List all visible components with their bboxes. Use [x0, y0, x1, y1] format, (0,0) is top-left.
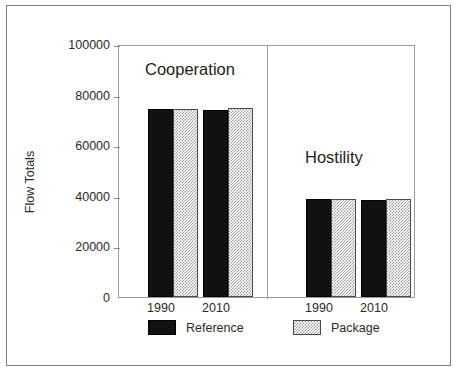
- legend-label-package: Package: [331, 321, 380, 335]
- panel-label-cooperation: Cooperation: [145, 60, 235, 79]
- bar-hostility-2010-package: [386, 199, 411, 297]
- y-axis-labels: Flow Totals 100000 80000 60000 40000 200…: [0, 45, 118, 298]
- panel-label-hostility: Hostility: [305, 148, 363, 167]
- y-tick-label-80000: 80000: [75, 90, 110, 103]
- y-axis-title: Flow Totals: [23, 139, 37, 225]
- y-tick-mark-100000: [114, 46, 120, 47]
- legend-label-reference: Reference: [186, 321, 244, 335]
- bar-hostility-1990-reference: [306, 199, 331, 297]
- panel-divider: [267, 46, 268, 299]
- x-tick-label-hostility-2010: 2010: [349, 301, 399, 315]
- y-tick-mark-80000: [114, 97, 120, 98]
- y-tick-label-60000: 60000: [75, 140, 110, 153]
- y-tick-label-100000: 100000: [68, 39, 110, 52]
- chart-legend: Reference Package: [118, 320, 418, 344]
- y-tick-mark-60000: [114, 147, 120, 148]
- x-tick-label-hostility-1990: 1990: [294, 301, 344, 315]
- bar-cooperation-1990-package: [173, 109, 198, 297]
- bar-cooperation-2010-package: [228, 108, 253, 298]
- plot-area: [118, 45, 415, 298]
- y-tick-mark-20000: [114, 248, 120, 249]
- legend-entry-package: Package: [293, 320, 380, 335]
- y-tick-label-20000: 20000: [75, 241, 110, 254]
- x-tick-label-cooperation-1990: 1990: [136, 301, 186, 315]
- legend-entry-reference: Reference: [148, 320, 244, 335]
- bar-hostility-2010-reference: [361, 200, 386, 297]
- bar-cooperation-2010-reference: [203, 110, 228, 297]
- bar-hostility-1990-package: [331, 199, 356, 297]
- y-tick-label-40000: 40000: [75, 191, 110, 204]
- legend-swatch-reference: [148, 320, 176, 335]
- bar-cooperation-1990-reference: [148, 109, 173, 297]
- y-tick-label-0: 0: [103, 292, 110, 305]
- chart-figure: Flow Totals 100000 80000 60000 40000 200…: [0, 0, 459, 373]
- legend-swatch-package: [293, 320, 321, 335]
- x-tick-label-cooperation-2010: 2010: [191, 301, 241, 315]
- y-tick-mark-40000: [114, 198, 120, 199]
